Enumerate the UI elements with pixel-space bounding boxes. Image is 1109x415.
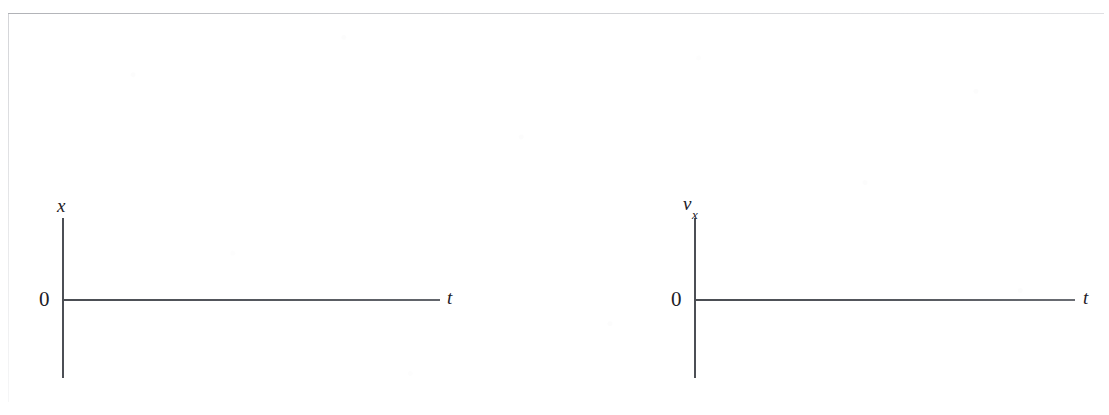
velocity-axis-label-text: v bbox=[683, 193, 691, 214]
position-graph-origin-label: 0 bbox=[39, 289, 50, 310]
velocity-axis-label-subscript: x bbox=[692, 207, 698, 222]
velocity-graph-vertical-axis-label: vx bbox=[683, 194, 697, 217]
velocity-graph-horizontal-axis-label: t bbox=[1083, 288, 1088, 307]
scanned-page: x t 0 vx t 0 bbox=[0, 0, 1109, 415]
position-graph-vertical-axis-label: x bbox=[57, 196, 65, 215]
velocity-time-graph: vx t 0 bbox=[631, 0, 1109, 415]
position-graph-vertical-axis bbox=[62, 218, 64, 378]
velocity-graph-origin-label: 0 bbox=[671, 289, 682, 310]
velocity-graph-horizontal-axis bbox=[694, 299, 1075, 301]
position-axis-label-text: x bbox=[57, 195, 65, 216]
position-time-graph: x t 0 bbox=[0, 0, 520, 415]
velocity-graph-vertical-axis bbox=[694, 218, 696, 378]
position-graph-horizontal-axis-label: t bbox=[447, 288, 452, 307]
position-graph-horizontal-axis bbox=[62, 299, 440, 301]
